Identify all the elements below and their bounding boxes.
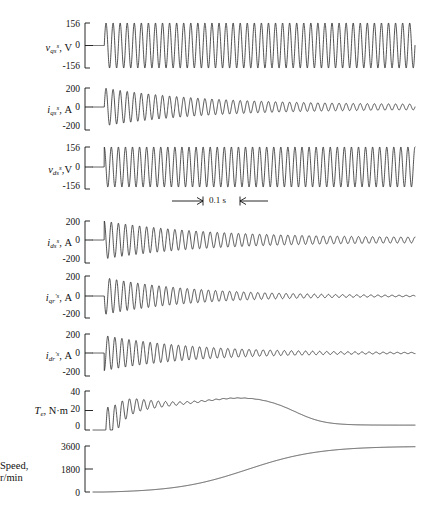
panel-speed: Speed,r/min 3600 1800 0 — [0, 440, 448, 510]
panel-torque: Te, N·m 40 20 0 — [0, 385, 448, 440]
plot-torque — [0, 385, 448, 440]
panel-ids: idss, A 200 0 -200 — [0, 213, 448, 271]
panel-vds: vdss,V 156 0 -156 — [0, 140, 448, 200]
plot-iqs — [0, 82, 448, 140]
time-scale-marker: 0.1 s — [0, 193, 448, 213]
panel-iqs: iqss, A 200 0 -200 — [0, 82, 448, 140]
plot-iqr — [0, 271, 448, 327]
plot-vds — [0, 140, 448, 200]
plot-speed — [0, 440, 448, 510]
plot-ids — [0, 213, 448, 271]
panel-idr: idr's, A 200 0 -200 — [0, 327, 448, 385]
plot-vqs — [0, 10, 448, 72]
motor-waveform-figure: vqss, V 156 0 -156 iqss, A 200 0 -200 vd… — [0, 0, 448, 522]
panel-vqs: vqss, V 156 0 -156 — [0, 10, 448, 72]
panel-iqr: iqr's, A 200 0 -200 — [0, 271, 448, 327]
time-marker-arrows — [0, 193, 448, 213]
plot-idr — [0, 327, 448, 385]
